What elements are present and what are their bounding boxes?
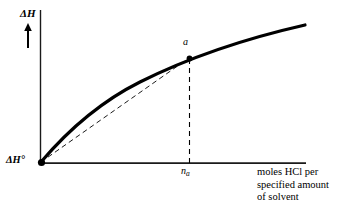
up-arrow-icon bbox=[24, 23, 32, 48]
origin-marker-icon bbox=[38, 159, 45, 166]
enthalpy-curve bbox=[41, 25, 305, 162]
x-axis-tick-label: na bbox=[181, 166, 190, 178]
x-axis-label-line-1: moles HCl per bbox=[257, 166, 329, 179]
x-axis-label-line-2: specified amount bbox=[257, 179, 329, 192]
chord-dashed-line bbox=[41, 58, 189, 162]
x-axis-label-line-3: of solvent bbox=[257, 191, 329, 204]
caption-partial bbox=[2, 196, 172, 205]
y-axis-label: ΔH bbox=[20, 8, 36, 19]
x-axis-label: moles HCl per specified amount of solven… bbox=[257, 166, 329, 204]
point-a-label: a bbox=[183, 37, 188, 47]
data-point-marker-icon bbox=[187, 56, 193, 62]
x-tick-subscript: a bbox=[186, 169, 190, 178]
thermodynamics-figure: ΔH ΔH° a na moles HCl per specified amou… bbox=[0, 0, 355, 208]
y-origin-value-label: ΔH° bbox=[6, 155, 25, 166]
